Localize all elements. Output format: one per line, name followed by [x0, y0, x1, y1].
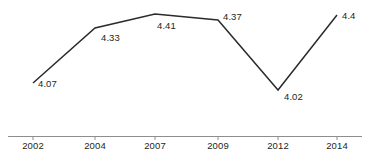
x-axis-label-2004: 2004	[84, 140, 106, 151]
x-axis-label-2009: 2009	[207, 140, 229, 151]
value-label-2007: 4.41	[157, 20, 176, 31]
value-label-2012: 4.02	[284, 91, 303, 102]
x-axis-label-2014: 2014	[326, 140, 348, 151]
line-chart: 4.074.334.414.374.024.4 2002200420072009…	[0, 0, 375, 164]
x-axis-line	[8, 136, 362, 137]
x-axis-label-2007: 2007	[144, 140, 166, 151]
value-label-2004: 4.33	[101, 32, 120, 43]
x-axis-label-2012: 2012	[267, 140, 289, 151]
value-label-2014: 4.4	[342, 10, 356, 21]
value-label-2002: 4.07	[38, 78, 57, 89]
value-label-2009: 4.37	[223, 11, 242, 22]
x-axis-label-2002: 2002	[22, 140, 44, 151]
data-series-line	[33, 14, 337, 90]
